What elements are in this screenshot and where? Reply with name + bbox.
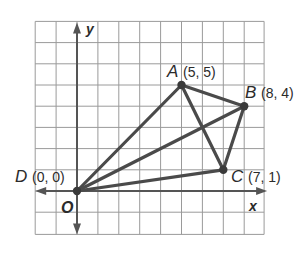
point-b-coords: (8, 4) [261, 85, 294, 101]
point-d-dot-icon [73, 187, 81, 195]
x-axis-label: x [248, 198, 258, 214]
coordinate-plane-svg: y x O A (5, 5) B (8, 4) C (7, 1) D (0, 0… [0, 0, 308, 255]
x-axis-right-arrow-icon [256, 187, 267, 195]
point-a-coords: (5, 5) [183, 64, 216, 80]
point-b-dot-icon [240, 102, 248, 110]
point-c-dot-icon [219, 166, 227, 174]
point-label-c: C (7, 1) [231, 167, 281, 186]
point-label-a: A (5, 5) [166, 62, 216, 81]
segment-da [77, 85, 182, 191]
x-axis-left-arrow-icon [35, 187, 46, 195]
point-b-letter: B [245, 83, 256, 102]
coordinate-plane-figure: y x O A (5, 5) B (8, 4) C (7, 1) D (0, 0… [0, 0, 308, 255]
point-label-d: D (0, 0) [15, 167, 65, 186]
y-axis-up-arrow-icon [73, 22, 81, 33]
point-a-letter: A [166, 62, 178, 81]
point-d-letter: D [15, 167, 27, 186]
origin-label: O [61, 199, 74, 216]
y-axis-down-arrow-icon [73, 223, 81, 234]
y-axis-label: y [85, 21, 95, 37]
point-a-dot-icon [177, 81, 185, 89]
point-label-b: B (8, 4) [245, 83, 294, 102]
point-c-letter: C [231, 167, 244, 186]
point-c-coords: (7, 1) [248, 169, 281, 185]
point-d-coords: (0, 0) [32, 169, 65, 185]
